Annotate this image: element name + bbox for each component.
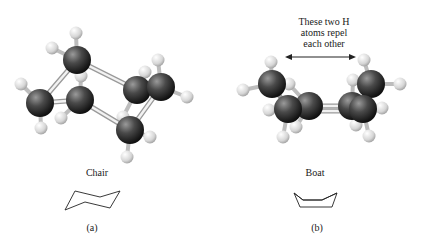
chair-line-drawing — [65, 191, 120, 210]
boat-title: Boat — [300, 167, 330, 178]
annotation-line: each other — [290, 38, 358, 49]
annotation-line: These two H — [290, 16, 358, 27]
chair-title: Chair — [80, 167, 114, 178]
panel-a-label: (a) — [80, 222, 104, 233]
carbon-atoms — [258, 70, 385, 123]
repulsion-annotation: These two H atoms repel each other — [290, 16, 358, 49]
annotation-line: atoms repel — [290, 27, 358, 38]
double-arrow-icon — [285, 54, 356, 60]
chair-model — [15, 27, 194, 164]
hydrogen-atoms — [237, 54, 407, 144]
panel-b-label: (b) — [305, 222, 329, 233]
boat-model — [237, 54, 407, 144]
